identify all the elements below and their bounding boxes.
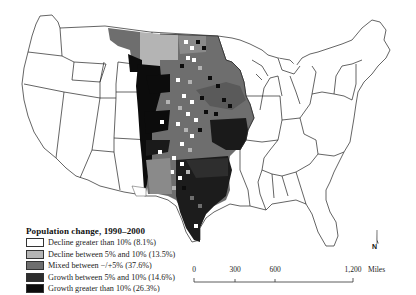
legend-item-decline-gt10: Decline greater than 10% (8.1%) — [26, 237, 175, 249]
map-legend: Population change, 1990–2000 Decline gre… — [26, 226, 175, 295]
north-arrow: N — [371, 230, 383, 254]
legend-label: Decline between 5% and 10% (13.5%) — [48, 250, 175, 259]
swatch-decline-gt10 — [26, 238, 44, 247]
scale-bar: 0 300 600 1,200 Miles — [190, 265, 416, 285]
swatch-decline-5-10 — [26, 250, 44, 259]
legend-label: Growth greater than 10% (26.3%) — [48, 284, 160, 293]
legend-title: Population change, 1990–2000 — [26, 226, 175, 236]
north-label: N — [372, 243, 377, 250]
swatch-growth-5-10 — [26, 273, 44, 282]
legend-label: Mixed between −/+5% (37.6%) — [48, 261, 152, 270]
legend-label: Decline greater than 10% (8.1%) — [48, 238, 156, 247]
swatch-mixed — [26, 261, 44, 270]
legend-item-growth-5-10: Growth between 5% and 10% (14.6%) — [26, 272, 175, 284]
legend-item-mixed: Mixed between −/+5% (37.6%) — [26, 260, 175, 272]
legend-item-growth-gt10: Growth greater than 10% (26.3%) — [26, 283, 175, 295]
north-arrow-icon — [371, 230, 383, 254]
scale-unit: Miles — [368, 265, 385, 274]
legend-item-decline-5-10: Decline between 5% and 10% (13.5%) — [26, 249, 175, 261]
swatch-growth-gt10 — [26, 284, 44, 293]
legend-label: Growth between 5% and 10% (14.6%) — [48, 273, 175, 282]
scale-line — [190, 265, 360, 285]
